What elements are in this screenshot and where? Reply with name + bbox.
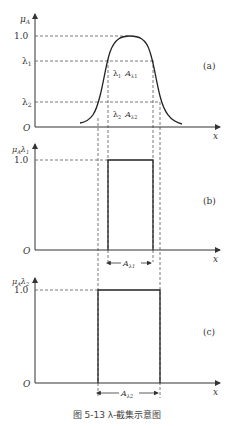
cut-set-rect-lambda1 <box>108 160 153 250</box>
annotation-lambda1: λ1Aλ1 <box>113 69 137 79</box>
x-axis-label: x <box>213 131 218 141</box>
x-axis-label: x <box>213 387 218 397</box>
tick-lambda1: λ1 <box>22 56 32 67</box>
lambda-cut-diagram: μA 1.0 λ1 λ2 O x (a) λ1Aλ1 λ2Aλ2 μAλ1 1.… <box>0 0 234 428</box>
tick-1: 1.0 <box>14 31 29 41</box>
tick-lambda2: λ2 <box>22 97 32 108</box>
y-axis-label: μA <box>20 14 31 25</box>
y-axis-label: μAλ1 <box>12 145 29 155</box>
origin-label: O <box>23 246 31 256</box>
origin-label: O <box>23 379 31 389</box>
tick-1: 1.0 <box>14 155 29 165</box>
cut-set-rect-lambda2 <box>98 290 160 383</box>
panel-a: μA 1.0 λ1 λ2 O x (a) λ1Aλ1 λ2Aλ2 <box>14 14 220 141</box>
panel-c: μAλ2 1.0 O x (c) Aλ2 <box>12 277 220 399</box>
origin-label: O <box>23 123 31 133</box>
x-axis-label: x <box>213 254 218 264</box>
tick-1: 1.0 <box>14 285 29 295</box>
annotation-lambda2: λ2Aλ2 <box>113 110 137 120</box>
panel-label-a: (a) <box>203 61 215 71</box>
panel-b: μAλ1 1.0 O x (b) Aλ1 <box>12 144 220 269</box>
figure-caption: 图 5-13 λ-截集示意图 <box>73 409 162 420</box>
panel-label-c: (c) <box>203 327 215 337</box>
panel-label-b: (b) <box>203 196 216 206</box>
